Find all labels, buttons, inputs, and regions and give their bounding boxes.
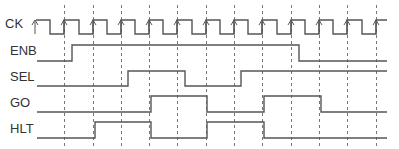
go-waveform xyxy=(37,96,387,112)
rising-edge-arrows xyxy=(32,20,379,34)
enb-waveform xyxy=(37,45,387,61)
ck-waveform xyxy=(36,20,387,34)
waveforms xyxy=(0,0,399,149)
timing-diagram: CK ENB SEL GO HLT xyxy=(0,0,399,149)
sel-waveform xyxy=(37,71,387,86)
hlt-waveform xyxy=(37,122,387,138)
